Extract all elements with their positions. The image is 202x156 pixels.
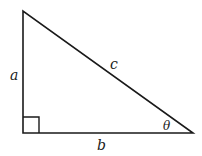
right-angle-marker (23, 117, 39, 133)
side-label-b: b (97, 137, 106, 153)
side-label-a: a (10, 67, 18, 83)
triangle (23, 11, 193, 133)
right-triangle-diagram: a c b θ (0, 0, 202, 156)
side-label-c: c (110, 56, 118, 72)
angle-label-theta: θ (163, 119, 171, 133)
